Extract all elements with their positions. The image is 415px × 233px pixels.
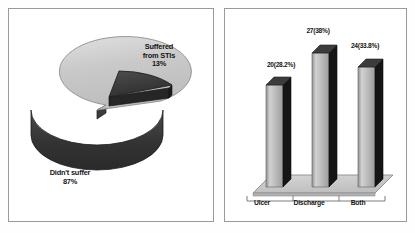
- bar-discharge: [312, 45, 337, 187]
- bar-category-label-discharge: Discharge: [282, 199, 336, 206]
- pie-chart-svg: [9, 9, 213, 221]
- bar-category-label-ulcer: Ulcer: [239, 199, 285, 206]
- bar-value-label-ulcer: 20(28.2%): [258, 61, 304, 68]
- pie-chart-panel: Suffered from STIs 13% Didn't suffer 87%: [8, 8, 214, 222]
- bar-both: [358, 59, 383, 187]
- bar-chart-area: [225, 9, 406, 221]
- pie-label-didnt-percent: 87%: [27, 178, 113, 187]
- pie-label-suffered-percent: 13%: [121, 60, 197, 69]
- pie-label-suffered-from-stis: Suffered from STIs 13%: [121, 43, 197, 69]
- bar-category-label-both: Both: [335, 199, 381, 206]
- bar-value-label-both: 24(33.8%): [341, 42, 389, 49]
- bar-chart-panel: 20(28.2%) 27(38%) 24(33.8%) Ulcer Discha…: [224, 8, 407, 222]
- pie-chart-area: [9, 9, 213, 221]
- bar-ulcer: [266, 77, 291, 187]
- bar-chart-svg: [225, 9, 406, 221]
- figure-root: Suffered from STIs 13% Didn't suffer 87%: [0, 0, 415, 233]
- bar-value-label-discharge: 27(38%): [295, 27, 341, 34]
- pie-label-didnt-suffer: Didn't suffer 87%: [27, 169, 113, 186]
